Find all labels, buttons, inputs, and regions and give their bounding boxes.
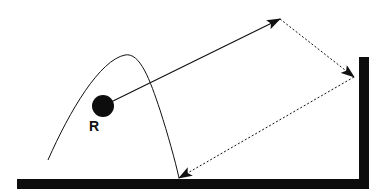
ray-solid-arrow [111,19,280,102]
source-label: R [89,119,99,133]
ray-dotted-arrow-1 [280,19,354,77]
trajectory-curve [48,55,179,178]
reflection-diagram [0,0,386,195]
ray-dotted-arrow-2 [179,77,354,178]
source-circle [92,95,114,117]
wall-surface [359,57,369,189]
floor-surface [17,179,369,189]
